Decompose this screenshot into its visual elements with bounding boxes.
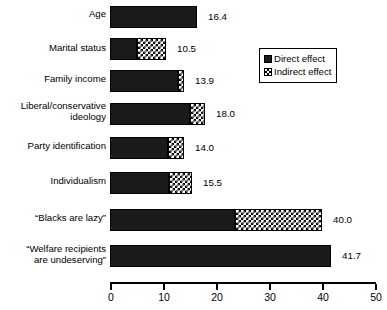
category-axis-labels: Age Marital status Family income Liberal…	[0, 0, 106, 278]
bar-direct-age	[110, 6, 197, 28]
x-axis-label-30: 30	[255, 291, 285, 304]
value-label-marital-status: 10.5	[177, 43, 196, 54]
bar-indirect-party-identification	[168, 137, 184, 159]
value-label-blacks-are-lazy: 40.0	[333, 214, 352, 225]
x-axis-label-20: 20	[202, 291, 232, 304]
category-label-ideology: Liberal/conservative ideology	[0, 100, 106, 122]
x-axis-tick-40	[322, 284, 324, 290]
x-axis-tick-30	[269, 284, 271, 290]
x-axis-label-10: 10	[149, 291, 179, 304]
x-axis-label-50: 50	[361, 291, 387, 304]
x-axis-tick-10	[163, 284, 165, 290]
legend-label-indirect-effect: Indirect effect	[274, 65, 331, 78]
bar-indirect-marital-status	[137, 38, 166, 60]
legend: Direct effect Indirect effect	[259, 48, 337, 83]
x-axis-tick-0	[110, 284, 112, 290]
category-label-family-income: Family income	[0, 73, 106, 84]
bar-indirect-ideology	[190, 103, 205, 125]
x-axis-tick-20	[216, 284, 218, 290]
bar-direct-welfare-recipients	[110, 245, 331, 267]
legend-item-direct-effect: Direct effect	[264, 52, 331, 65]
value-label-welfare-recipients: 41.7	[342, 250, 361, 261]
bar-direct-family-income	[110, 70, 178, 92]
bar-direct-ideology	[110, 103, 190, 125]
value-label-ideology: 18.0	[216, 108, 235, 119]
bar-indirect-individualism	[169, 172, 192, 194]
bar-direct-blacks-are-lazy	[110, 209, 235, 231]
crosshatch-square-icon	[264, 68, 272, 76]
legend-item-indirect-effect: Indirect effect	[264, 65, 331, 78]
bar-indirect-blacks-are-lazy	[235, 209, 322, 231]
category-label-marital-status: Marital status	[0, 42, 106, 53]
legend-label-direct-effect: Direct effect	[274, 52, 325, 65]
value-label-family-income: 13.9	[195, 75, 214, 86]
bar-direct-party-identification	[110, 137, 168, 159]
category-label-welfare-recipients: “Welfare recipients are undeserving”	[0, 243, 106, 265]
plot-area: 16.4 10.5 13.9 18.0 14.0 15.5 40.0 41.7	[110, 4, 375, 278]
category-label-party-identification: Party identification	[0, 140, 106, 151]
bar-direct-individualism	[110, 172, 169, 194]
bar-direct-marital-status	[110, 38, 137, 60]
solid-black-square-icon	[264, 55, 272, 63]
x-axis-line	[110, 282, 376, 284]
value-label-age: 16.4	[208, 11, 227, 22]
x-axis-label-40: 40	[308, 291, 338, 304]
category-label-individualism: Individualism	[0, 175, 106, 186]
category-label-age: Age	[0, 8, 106, 19]
x-axis-label-0: 0	[96, 291, 126, 304]
category-label-blacks-are-lazy: “Blacks are lazy”	[0, 212, 106, 223]
value-label-party-identification: 14.0	[195, 142, 214, 153]
bar-indirect-family-income	[178, 70, 184, 92]
value-label-individualism: 15.5	[203, 177, 222, 188]
x-axis-tick-50	[375, 284, 377, 290]
